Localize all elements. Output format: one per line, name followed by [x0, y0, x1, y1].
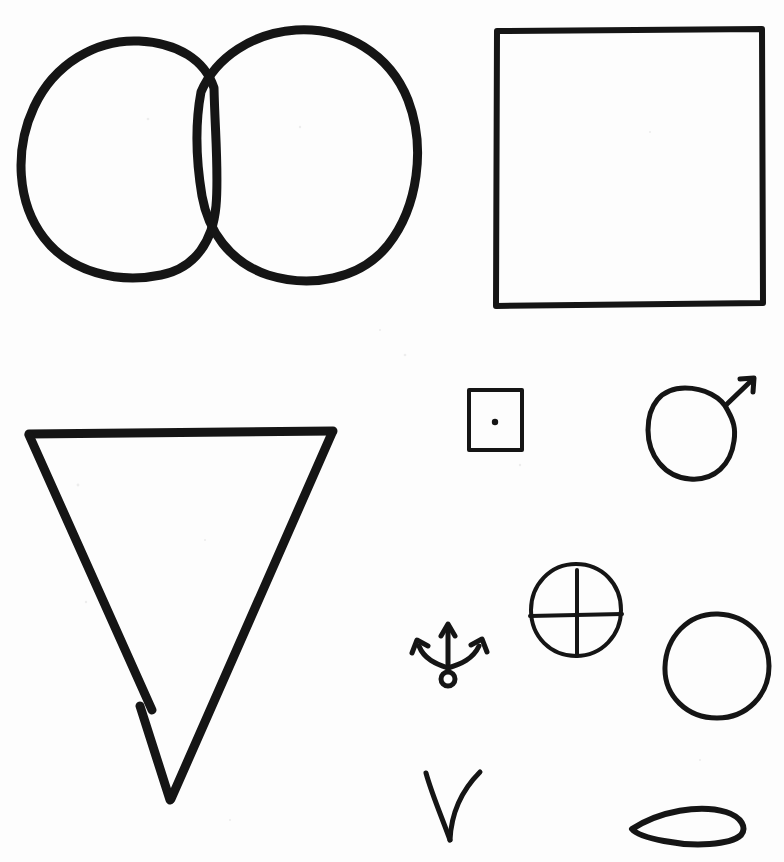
crossed-circle[interactable] [528, 562, 623, 658]
two-overlapping-circles[interactable] [22, 28, 420, 283]
small-square-with-dot[interactable] [466, 387, 525, 452]
inverted-triangle[interactable] [26, 428, 336, 803]
anchor-symbol[interactable] [411, 618, 500, 690]
large-square[interactable] [494, 27, 764, 307]
plain-circle[interactable] [662, 612, 772, 720]
circle-with-arrow[interactable] [645, 376, 761, 481]
lens-shape[interactable] [629, 803, 749, 848]
drawing-sheet: Hand-drawn shapes sheet Scanned sheet of… [0, 0, 784, 862]
check-curve[interactable] [423, 770, 483, 845]
